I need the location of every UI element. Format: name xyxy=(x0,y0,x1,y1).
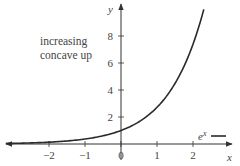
x-tick-label: −2 xyxy=(43,149,55,161)
y-tick-label: 4 xyxy=(108,84,114,96)
y-axis-label: y xyxy=(107,3,113,15)
y-tick-label: 2 xyxy=(108,111,114,123)
annotation: increasing concave up xyxy=(40,34,92,62)
x-axis-label: x xyxy=(226,151,232,163)
y-tick-label: 6 xyxy=(108,57,114,69)
annotation-line-1: increasing xyxy=(40,34,92,48)
annotation-line-2: concave up xyxy=(40,48,92,62)
x-tick-label: 1 xyxy=(154,149,160,161)
x-tick-label: 2 xyxy=(190,149,196,161)
exp-curve xyxy=(6,9,204,143)
y-ticks: 2468 xyxy=(108,30,125,123)
legend: ex xyxy=(198,129,226,142)
y-tick-label: 8 xyxy=(108,30,114,42)
x-tick-label: −1 xyxy=(79,149,91,161)
legend-label: ex xyxy=(198,129,207,142)
x-tick-label: 0 xyxy=(118,149,124,161)
chart-canvas: −2−1012 2468 x y ex xyxy=(0,0,240,166)
